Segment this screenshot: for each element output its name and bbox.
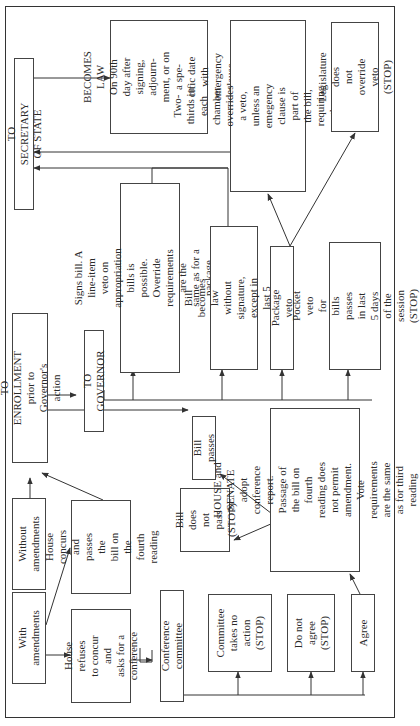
- node-to-enrollment: TO ENROLLMENT prior to Governor's action: [12, 313, 48, 463]
- node-to-secretary-label: TO SECRETARY OF STATE: [5, 103, 44, 165]
- node-with-amendments: With amendments: [12, 592, 46, 684]
- node-two-thirds: Two-thirds in each chamber overrides a v…: [230, 20, 306, 192]
- node-house-refuses: House refuses to concur and asks for a c…: [71, 609, 131, 703]
- node-without-signature: Bill becomes law without signature, exce…: [210, 226, 258, 370]
- node-committee-no-action: Committee takes no action (STOP): [208, 594, 272, 672]
- node-agree-label: Agree: [357, 620, 370, 647]
- node-do-not-agree-label: Do not agree (STOP): [292, 616, 331, 650]
- node-committee-no-action-label: Committee takes no action (STOP): [214, 609, 266, 658]
- node-without-amendments-label: Without amendments: [16, 516, 42, 572]
- node-conference-committee-label: Conference committee: [159, 621, 185, 672]
- node-to-enrollment-label: TO ENROLLMENT prior to Governor's action: [0, 351, 63, 426]
- node-conference-committee: Conference committee: [160, 590, 184, 702]
- node-bill-passes-label: Bill passes: [191, 434, 217, 462]
- node-legislature-no-override-label: Legislature does not override veto (STOP…: [316, 52, 394, 101]
- node-do-not-agree: Do not agree (STOP): [287, 594, 335, 672]
- node-house-senate-adopt: HOUSE and SENATE adopt conference report…: [270, 408, 360, 572]
- node-agree: Agree: [351, 594, 375, 672]
- node-house-concurs: House concurs and passes the bill on the…: [71, 500, 131, 594]
- node-pocket-veto-label: Pocket veto for bills passes in last 5 d…: [290, 289, 420, 323]
- node-house-concurs-label: House concurs and passes the bill on the…: [43, 530, 160, 564]
- node-signs-bill: Signs bill. A line-item veto on appropri…: [120, 183, 180, 373]
- node-house-senate-adopt-label: HOUSE and SENATE adopt conference report…: [211, 461, 419, 518]
- node-to-secretary: TO SECRETARY OF STATE: [14, 58, 34, 210]
- node-legislature-no-override: Legislature does not override veto (STOP…: [331, 22, 379, 132]
- node-pocket-veto: Pocket veto for bills passes in last 5 d…: [329, 242, 381, 370]
- node-house-refuses-label: House refuses to concur and asks for a c…: [62, 632, 140, 680]
- node-to-governor-label: TO GOVERNOR: [81, 350, 107, 411]
- node-to-governor: TO GOVERNOR: [84, 330, 104, 432]
- node-without-amendments: Without amendments: [12, 498, 46, 590]
- node-with-amendments-label: With amendments: [16, 610, 42, 666]
